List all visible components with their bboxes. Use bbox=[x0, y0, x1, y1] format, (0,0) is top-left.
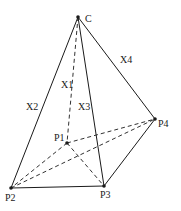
edge-label-x4: X4 bbox=[120, 54, 132, 65]
pyramid-diagram: C P1 P2 P3 P4 X1 X2 X3 X4 bbox=[0, 0, 181, 211]
edge-c-p2 bbox=[11, 17, 78, 188]
vertex-p1-dot bbox=[65, 141, 69, 145]
edge-p2-p3 bbox=[11, 186, 104, 188]
vertex-label-p2: P2 bbox=[5, 192, 16, 203]
vertex-label-p4: P4 bbox=[158, 118, 169, 129]
vertex-label-c: C bbox=[85, 13, 92, 24]
vertex-p4-dot bbox=[153, 117, 157, 121]
edge-label-x2: X2 bbox=[26, 101, 38, 112]
vertex-p2-dot bbox=[9, 186, 13, 190]
edge-label-x1: X1 bbox=[61, 79, 73, 90]
vertex-label-p1: P1 bbox=[54, 132, 65, 143]
vertex-label-p3: P3 bbox=[100, 189, 111, 200]
edge-p1-p4 bbox=[67, 119, 155, 143]
edge-label-x3: X3 bbox=[78, 101, 90, 112]
vertex-p3-dot bbox=[102, 184, 106, 188]
edge-p2-p4 bbox=[11, 119, 155, 188]
edge-p3-p4 bbox=[104, 119, 155, 186]
vertex-c-dot bbox=[76, 15, 80, 19]
